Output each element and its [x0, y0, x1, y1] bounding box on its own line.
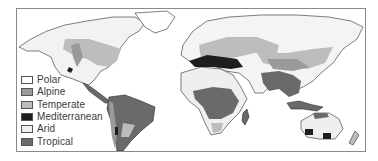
- legend-label: Tropical: [37, 136, 73, 148]
- legend-label: Alpine: [37, 86, 65, 98]
- madagascar: [242, 109, 249, 125]
- legend-label: Temperate: [37, 99, 85, 111]
- legend-item-mediterranean: Mediterranean: [21, 111, 103, 123]
- map-frame: Polar Alpine Temperate Mediterranean Ari…: [16, 8, 366, 152]
- swatch-polar: [21, 76, 33, 84]
- new-zealand: [349, 131, 359, 145]
- legend-label: Polar: [37, 74, 61, 86]
- legend-item-alpine: Alpine: [21, 86, 103, 98]
- swatch-tropical: [21, 138, 33, 146]
- swatch-alpine: [21, 88, 33, 96]
- swatch-mediterranean: [21, 113, 33, 121]
- legend-label: Arid: [37, 123, 55, 135]
- greenland: [135, 11, 175, 33]
- legend-item-temperate: Temperate: [21, 99, 103, 111]
- legend-item-polar: Polar: [21, 74, 103, 86]
- swatch-temperate: [21, 101, 33, 109]
- legend: Polar Alpine Temperate Mediterranean Ari…: [21, 74, 103, 148]
- zone-mediterranean-australia-west: [305, 129, 313, 135]
- indonesia: [287, 101, 323, 111]
- legend-item-tropical: Tropical: [21, 135, 103, 147]
- legend-item-arid: Arid: [21, 123, 103, 135]
- legend-label: Mediterranean: [37, 111, 103, 123]
- zone-mediterranean-australia-south: [323, 133, 331, 139]
- zone-mediterranean-chile: [115, 127, 118, 135]
- swatch-arid: [21, 125, 33, 133]
